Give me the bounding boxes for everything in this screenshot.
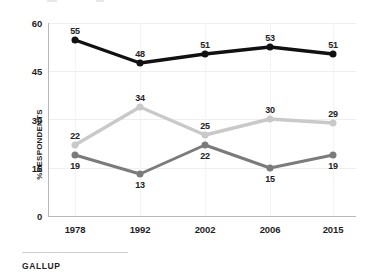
- data-point: [72, 142, 79, 149]
- data-point: [137, 171, 144, 178]
- data-label: 29: [328, 109, 338, 119]
- series-lines: [0, 0, 376, 276]
- data-point: [267, 116, 274, 123]
- data-point: [137, 60, 144, 67]
- data-label: 30: [265, 105, 275, 115]
- footer-divider: [22, 252, 128, 253]
- data-label: 22: [200, 151, 210, 161]
- data-point: [330, 152, 337, 159]
- data-point: [72, 152, 79, 159]
- data-point: [72, 37, 79, 44]
- source-attribution: GALLUP: [22, 261, 61, 271]
- data-label: 34: [135, 93, 145, 103]
- data-point: [202, 142, 209, 149]
- data-point: [330, 120, 337, 127]
- data-label: 19: [70, 161, 80, 171]
- gallup-line-chart: 60 45 30 15 0 %RESPONDENTS 1978 1992 200…: [0, 0, 376, 276]
- data-label: 25: [200, 121, 210, 131]
- data-label: 48: [135, 49, 145, 59]
- data-label: 15: [265, 174, 275, 184]
- data-point: [202, 132, 209, 139]
- data-label: 19: [328, 161, 338, 171]
- data-point: [202, 51, 209, 58]
- data-label: 55: [70, 26, 80, 36]
- data-point: [137, 104, 144, 111]
- data-point: [330, 51, 337, 58]
- data-point: [267, 44, 274, 51]
- data-label: 13: [135, 180, 145, 190]
- data-label: 51: [328, 40, 338, 50]
- data-label: 22: [70, 131, 80, 141]
- data-point: [267, 165, 274, 172]
- data-label: 51: [200, 40, 210, 50]
- data-label: 53: [265, 33, 275, 43]
